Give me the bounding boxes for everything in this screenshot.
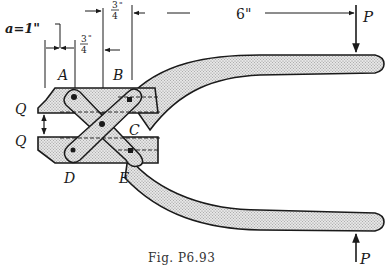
dim-3-4-lower-num: 3 [81,34,87,44]
pin-D [71,148,76,153]
label-Q-top: Q [15,101,27,117]
figure-caption: Fig. P6.93 [148,251,215,265]
dim-6-inch: 6" [236,6,251,22]
label-B: B [112,67,123,83]
lower-handle [125,157,384,231]
pin-A [71,94,77,100]
pin-E [128,148,133,153]
pin-B [127,97,132,102]
label-E: E [118,170,129,186]
pin-C [99,121,105,127]
label-P-bottom: P [359,250,371,268]
label-A: A [56,67,68,83]
pliers-diagram: A B C D E Q Q P P a=1" 3 4 " 3 4 " 6" Fi… [0,0,388,270]
dim-3-4-lower-unit: " [88,33,92,42]
dim-3-4-upper-num: 3 [112,0,118,10]
label-C: C [129,122,140,138]
label-D: D [63,170,75,186]
upper-handle [128,55,384,130]
dim-3-4-upper-den: 4 [112,11,118,21]
label-P-top: P [362,8,374,26]
dim-3-4-lower-den: 4 [81,45,87,55]
dim-3-4-upper-unit: " [119,0,123,9]
label-Q-bottom: Q [15,133,27,149]
dim-a: a=1" [5,21,40,36]
